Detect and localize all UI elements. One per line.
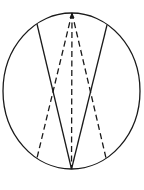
right-solid-chord bbox=[72, 25, 108, 169]
left-solid-chord bbox=[37, 24, 72, 169]
right-dashed-chord bbox=[72, 13, 106, 158]
geometry-diagram bbox=[0, 0, 144, 190]
center-dashed-line bbox=[72, 13, 73, 169]
apex-marker-icon bbox=[70, 13, 75, 18]
left-dashed-chord bbox=[37, 13, 72, 158]
dashed-lines bbox=[37, 13, 106, 169]
